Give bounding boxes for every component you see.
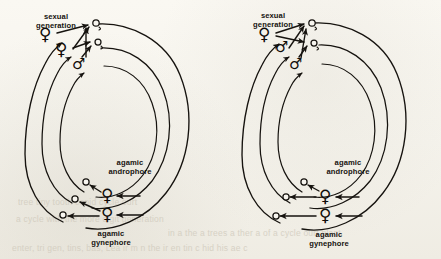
egg-outer-top [309, 20, 315, 26]
node-sexual-female-outer: ♀ [258, 26, 270, 43]
life-cycle-diagram-right: sexual generation agamic androphore agam… [220, 0, 440, 259]
egg-inner-bottom [301, 179, 307, 185]
egg-outer-bottom [273, 213, 279, 219]
node-sexual-female-outer: ♀ [39, 26, 51, 43]
middle-ring-return-arc [260, 57, 290, 203]
label-sexual-generation: sexual generation [242, 11, 304, 30]
node-sexual-male-middle: ♂ [275, 40, 288, 55]
egg-middle-bottom [283, 194, 289, 200]
egg-middle-top-tail [317, 47, 319, 50]
figure-canvas: tree tiny tooth conid cycle ourt a cycle… [0, 0, 441, 259]
node-sexual-male-inner: ♂ [72, 57, 85, 72]
node-agamic-androphore-female: ♀ [319, 188, 331, 205]
egg-inner-bottom [83, 179, 89, 185]
egg-middle-top [311, 40, 317, 46]
outer-ring-return-arc [242, 44, 280, 223]
label-agamic-androphore: agamic androphore [94, 158, 166, 177]
egg-middle-bottom [72, 196, 78, 202]
middle-ring-return-arc [42, 57, 72, 203]
label-sexual-generation: sexual generation [25, 12, 87, 31]
egg-outer-top [93, 20, 99, 26]
arrow-androphore-to-inner-egg [308, 185, 319, 191]
label-agamic-gynephore: agamic gynephore [293, 230, 365, 249]
arrow-gynephore-to-middle-egg [80, 202, 100, 211]
egg-outer-bottom [60, 212, 66, 218]
outer-ring-return-arc [25, 43, 63, 222]
egg-middle-top [95, 39, 101, 45]
inner-ring-return-arc [278, 73, 302, 192]
node-sexual-female-middle: ♀ [55, 41, 67, 58]
egg-outer-top-tail [315, 27, 317, 30]
arrow-androphore-to-inner-egg [90, 185, 101, 192]
node-agamic-androphore-female: ♀ [101, 187, 113, 204]
life-cycle-diagram-left: sexual generation agamic androphore agam… [0, 0, 220, 259]
egg-outer-top-tail [99, 27, 101, 30]
inner-ring-arc [96, 66, 157, 197]
node-agamic-gynephore-female: ♀ [319, 207, 331, 224]
node-sexual-male-inner: ♂ [289, 57, 302, 72]
node-agamic-gynephore-female: ♀ [101, 206, 113, 223]
label-agamic-gynephore: agamic gynephore [75, 229, 147, 248]
label-agamic-androphore: agamic androphore [312, 158, 384, 177]
inner-ring-arc [314, 64, 375, 197]
inner-ring-return-arc [60, 73, 84, 192]
middle-ring-arc [310, 45, 388, 209]
